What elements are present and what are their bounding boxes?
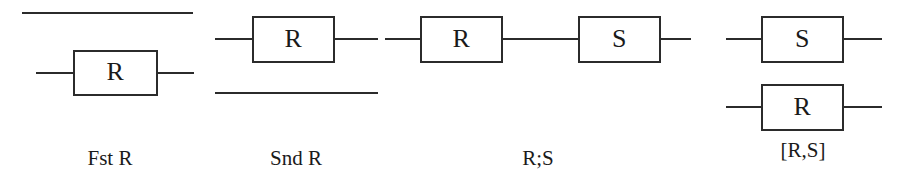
- panel-r-par-s-box-s-label: S: [795, 26, 810, 52]
- panel-snd-r-box-r: R: [252, 16, 335, 63]
- panel-r-par-s-bottom-output-wire: [843, 106, 882, 108]
- panel-r-par-s-caption: [R,S]: [733, 138, 873, 163]
- panel-r-seq-s-box-r: R: [420, 16, 503, 63]
- panel-snd-r-identity-wire: [215, 92, 378, 94]
- panel-snd-r-output-wire: [334, 38, 378, 40]
- panel-r-seq-s-box-s-label: S: [612, 26, 627, 52]
- panel-r-seq-s-input-wire: [385, 38, 422, 40]
- circuit-diagram-figure: R Fst R R Snd R R S R;S S R [R,: [0, 0, 910, 181]
- panel-r-par-s-box-r-label: R: [794, 94, 812, 120]
- panel-r-par-s-box-s: S: [761, 16, 844, 63]
- panel-r-par-s-bottom-input-wire: [726, 106, 762, 108]
- panel-r-seq-s-connecting-wire: [502, 38, 580, 40]
- panel-r-seq-s-caption: R;S: [468, 146, 608, 171]
- panel-fst-r-identity-wire: [22, 12, 193, 14]
- panel-r-seq-s-box-r-label: R: [453, 26, 471, 52]
- panel-r-seq-s-box-s: S: [578, 16, 661, 63]
- panel-fst-r-box-r-label: R: [107, 59, 125, 85]
- panel-r-par-s-top-output-wire: [843, 38, 882, 40]
- panel-fst-r-box-r: R: [73, 50, 158, 96]
- panel-r-seq-s-output-wire: [660, 38, 691, 40]
- panel-fst-r-output-wire: [157, 72, 194, 74]
- panel-snd-r-input-wire: [215, 38, 254, 40]
- panel-fst-r-caption: Fst R: [40, 146, 180, 171]
- panel-r-par-s-top-input-wire: [726, 38, 762, 40]
- panel-fst-r-input-wire: [36, 72, 74, 74]
- panel-snd-r-box-r-label: R: [285, 26, 303, 52]
- panel-r-par-s-box-r: R: [761, 84, 844, 131]
- panel-snd-r-caption: Snd R: [226, 146, 366, 171]
